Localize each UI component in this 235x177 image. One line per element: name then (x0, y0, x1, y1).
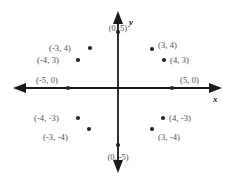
point-marker (87, 127, 91, 131)
x-axis-label: x (213, 95, 218, 104)
point-label-3-4: (3, 4) (158, 41, 177, 50)
point-marker (66, 86, 70, 90)
point-label-4-neg3: (4, -3) (169, 114, 191, 123)
point-marker (150, 47, 154, 51)
point-marker (116, 143, 120, 147)
point-marker (76, 58, 80, 62)
coordinate-plane-figure: y x (-3, 4) (-4, 3) (3, 4) (4, 3) (-5, 0… (0, 0, 235, 177)
point-marker (170, 86, 174, 90)
point-marker (150, 127, 154, 131)
point-label-neg3-neg4: (-3, -4) (43, 133, 68, 142)
point-label-5-0: (5, 0) (180, 76, 199, 85)
point-label-0-neg5: (0, -5) (107, 153, 128, 162)
y-axis-label: y (129, 18, 133, 27)
point-label-neg5-0: (-5, 0) (36, 76, 58, 85)
point-marker (161, 116, 165, 120)
point-marker (76, 116, 80, 120)
point-label-3-neg4: (3, -4) (158, 133, 180, 142)
point-label-0-5: (0, 5) (109, 24, 127, 33)
point-label-neg4-neg3: (-4, -3) (34, 114, 59, 123)
x-axis-left-arrowhead (13, 83, 26, 93)
x-axis-right-arrowhead (209, 83, 222, 93)
point-marker (162, 58, 166, 62)
point-label-4-3: (4, 3) (170, 56, 189, 65)
point-label-neg4-3: (-4, 3) (37, 56, 59, 65)
point-label-neg3-4: (-3, 4) (49, 44, 71, 53)
point-marker (88, 46, 92, 50)
